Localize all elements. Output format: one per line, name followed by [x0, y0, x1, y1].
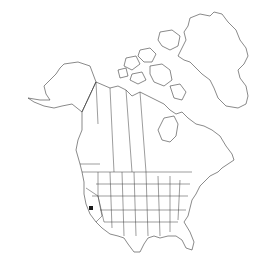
- arctic-islands: [118, 30, 186, 100]
- occurrence-marker: [89, 206, 93, 210]
- north-america-outline: [0, 0, 274, 270]
- distribution-map: [0, 0, 274, 270]
- greenland: [178, 12, 248, 108]
- mainland: [76, 82, 234, 252]
